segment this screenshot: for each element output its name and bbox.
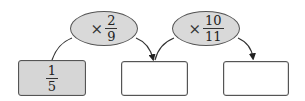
start-fraction: 1 5	[46, 64, 58, 93]
operator-ellipse-1: × 2 9	[70, 11, 138, 46]
numerator: 1	[46, 64, 58, 78]
operator-fraction: 10 11	[203, 14, 224, 43]
numerator: 10	[203, 14, 224, 28]
operator-ellipse-2: × 10 11	[172, 11, 240, 46]
denominator: 11	[203, 28, 224, 43]
answer-box-2-value	[224, 62, 288, 95]
arrow-2	[238, 38, 253, 58]
denominator: 9	[105, 28, 117, 43]
denominator: 5	[46, 78, 58, 93]
connector-line-1	[52, 38, 72, 60]
arrow-1	[136, 38, 153, 59]
start-value-box: 1 5	[18, 60, 86, 96]
answer-box-1-value	[122, 62, 187, 95]
numerator: 2	[105, 14, 117, 28]
times-sign: ×	[91, 20, 104, 38]
operator-fraction: 2 9	[105, 14, 117, 43]
answer-box-1[interactable]	[121, 61, 188, 96]
connector-line-2	[155, 38, 174, 60]
answer-box-2[interactable]	[223, 61, 289, 96]
times-sign: ×	[188, 20, 201, 38]
